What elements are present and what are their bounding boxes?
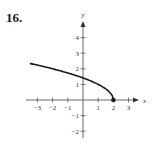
y-tick-label: −1 [72,112,80,120]
x-tick-label: −1 [64,104,72,112]
x-tick-label: −3 [34,104,42,112]
y-axis-label: y [81,11,86,19]
endpoint-dot [111,98,116,103]
y-tick-label: 4 [76,34,80,42]
x-tick-label: −2 [49,104,57,112]
y-tick-label: 1 [76,81,80,89]
y-tick-label: 2 [76,65,80,73]
function-curve [30,63,114,100]
y-axis-arrow-icon [81,21,86,27]
x-axis-label: x [142,97,147,105]
x-tick-label: 2 [112,104,116,112]
x-tick-label: 3 [127,104,131,112]
graph: xy−3−2−1123−2−11234 [0,0,159,148]
x-axis-arrow-icon [133,98,139,103]
y-tick-label: 3 [76,50,80,58]
x-tick-label: 1 [96,104,100,112]
y-tick-label: −2 [72,128,80,136]
